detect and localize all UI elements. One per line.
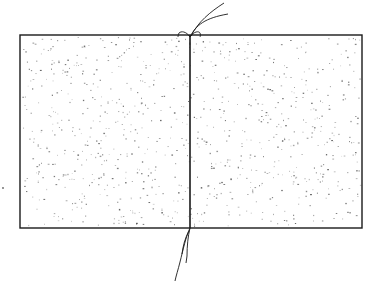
stray-dot [2,187,4,189]
panel-frame [20,35,362,228]
hanging-strings [175,228,190,281]
drawing-canvas [0,0,384,299]
speckle-texture [23,37,362,227]
bow-icon [178,3,228,37]
